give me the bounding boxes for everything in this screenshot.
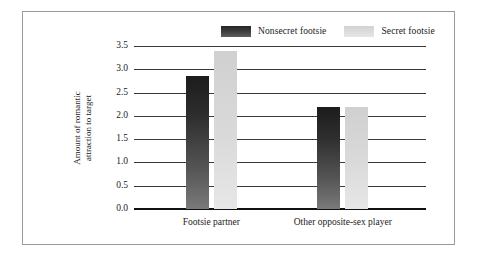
gridline: [134, 162, 426, 163]
axis-baseline: [134, 208, 426, 210]
y-axis-tick-label: 3.5: [104, 41, 128, 51]
y-axis-tick-label: 1.5: [104, 134, 128, 144]
legend-label-nonsecret-footsie: Nonsecret footsie: [258, 26, 326, 37]
y-axis-title-line-2: attraction to target: [83, 91, 94, 165]
x-axis-category-label: Footsie partner: [183, 217, 240, 228]
chart-figure-frame: Nonsecret footsie Secret footsie Amount …: [22, 11, 455, 245]
legend-entry-secret-footsie[interactable]: Secret footsie: [344, 26, 434, 37]
bar-secret-footsie-group-2[interactable]: [345, 107, 368, 209]
y-axis-title: Amount of romantic attraction to target: [71, 46, 95, 209]
legend-swatch-dark-icon: [221, 26, 251, 37]
y-axis-tick-label: 2.5: [104, 88, 128, 98]
legend-entry-nonsecret-footsie[interactable]: Nonsecret footsie: [221, 26, 326, 37]
gridline: [134, 46, 426, 47]
gridline: [134, 93, 426, 94]
gridline: [134, 69, 426, 70]
bar-secret-footsie-group-1[interactable]: [214, 51, 237, 209]
legend-label-secret-footsie: Secret footsie: [381, 26, 434, 37]
y-axis-tick-label: 0.0: [104, 204, 128, 214]
y-axis-title-line-1: Amount of romantic: [72, 91, 83, 165]
y-axis-tick-label: 3.0: [104, 65, 128, 75]
y-axis-tick-label: 2.0: [104, 111, 128, 121]
y-axis-tick-label: 0.5: [104, 181, 128, 191]
legend-swatch-light-icon: [344, 26, 374, 37]
gridline: [134, 186, 426, 187]
gridline: [134, 116, 426, 117]
y-axis-tick-label: 1.0: [104, 158, 128, 168]
bar-nonsecret-footsie-group-1[interactable]: [186, 76, 209, 209]
x-axis-category-label: Other opposite-sex player: [294, 217, 392, 228]
gridline: [134, 139, 426, 140]
bar-nonsecret-footsie-group-2[interactable]: [317, 107, 340, 209]
plot-area: 3.53.02.52.01.51.00.50.0Footsie partnerO…: [134, 46, 426, 209]
chart-legend: Nonsecret footsie Secret footsie: [221, 26, 435, 37]
